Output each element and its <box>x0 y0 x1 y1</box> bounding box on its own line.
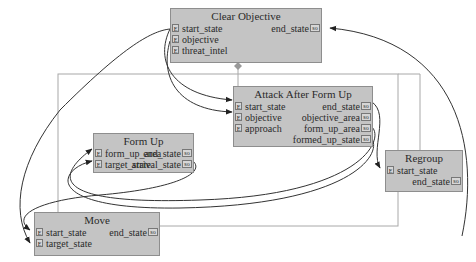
port-label: start_state <box>46 227 87 238</box>
output-port-form-up-area[interactable]: so <box>361 124 371 132</box>
output-port-end-state[interactable]: so <box>182 149 192 157</box>
port-label: target_state <box>46 238 92 249</box>
output-port-formed-up-state[interactable]: so <box>361 135 371 143</box>
port-label: objective <box>245 112 282 123</box>
node-title: Move <box>35 214 159 227</box>
port-label: start_state <box>245 101 286 112</box>
input-port-start-state[interactable]: E <box>387 166 394 174</box>
port-label: end_state <box>143 148 181 159</box>
node-title: Attack After Form Up <box>234 88 372 101</box>
output-port-end-state[interactable]: so <box>310 24 320 32</box>
port-label: threat_intel <box>182 45 228 56</box>
node-form-up[interactable]: Form Up Eform_up_areaend_stateso Etarget… <box>93 133 194 173</box>
input-port-form-up-area[interactable]: E <box>95 149 102 157</box>
input-port-objective[interactable]: E <box>235 113 242 121</box>
port-label: objective_area <box>302 112 360 123</box>
port-label: form_up_area <box>304 123 360 134</box>
port-label: end_state <box>412 176 450 187</box>
output-port-objective-area[interactable]: so <box>361 113 371 121</box>
input-port-start-state[interactable]: E <box>36 228 43 236</box>
port-label: objective <box>182 34 219 45</box>
output-port-end-state[interactable]: so <box>361 102 371 110</box>
port-label: start_state <box>182 23 223 34</box>
input-port-target-state[interactable]: E <box>36 239 43 247</box>
port-label: end_state <box>322 101 360 112</box>
node-regroup[interactable]: Regroup Estart_state end_stateso <box>385 150 463 192</box>
output-port-end-state[interactable]: so <box>451 177 461 185</box>
input-port-start-state[interactable]: E <box>235 102 242 110</box>
input-port-approach[interactable]: E <box>235 124 242 132</box>
node-move[interactable]: Move Estart_stateend_stateso Etarget_sta… <box>34 212 160 256</box>
port-label: approach <box>245 123 282 134</box>
input-port-target-state[interactable]: E <box>95 160 102 168</box>
output-port-end-state[interactable]: so <box>148 228 158 236</box>
port-label: arrival_state <box>132 159 181 170</box>
output-port-arrival-state[interactable]: so <box>182 160 192 168</box>
node-title: Form Up <box>94 135 193 148</box>
node-title: Regroup <box>386 152 462 165</box>
node-attack-after-form-up[interactable]: Attack After Form Up Estart_stateend_sta… <box>233 86 373 147</box>
port-label: end_state <box>109 227 147 238</box>
input-port-threat-intel[interactable]: E <box>172 46 179 54</box>
port-label: start_state <box>397 165 438 176</box>
input-port-objective[interactable]: E <box>172 35 179 43</box>
node-title: Clear Objective <box>171 10 321 23</box>
input-port-start-state[interactable]: E <box>172 24 179 32</box>
port-label: formed_up_state <box>293 134 360 145</box>
port-label: end_state <box>271 23 309 34</box>
node-clear-objective[interactable]: Clear Objective Estart_stateend_stateso … <box>170 8 322 63</box>
